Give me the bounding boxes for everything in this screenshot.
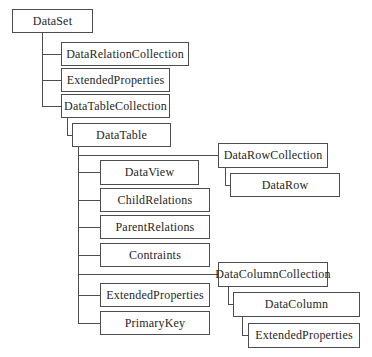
node-data-column-collection: DataColumnCollection	[218, 262, 328, 287]
node-primary-key: PrimaryKey	[100, 311, 210, 335]
node-dataset: DataSet	[12, 9, 93, 33]
node-data-table-collection: DataTableCollection	[61, 94, 170, 118]
node-data-view: DataView	[100, 160, 199, 185]
node-child-relations: ChildRelations	[100, 188, 210, 212]
node-data-relation-collection: DataRelationCollection	[61, 42, 189, 66]
node-extended-properties-table: ExtendedProperties	[100, 283, 210, 307]
node-data-row: DataRow	[230, 173, 340, 197]
dataset-hierarchy-diagram: DataSet DataRelationCollection ExtendedP…	[0, 0, 372, 357]
node-extended-properties-column: ExtendedProperties	[248, 323, 360, 348]
node-data-column: DataColumn	[233, 292, 360, 317]
node-parent-relations: ParentRelations	[100, 215, 210, 239]
node-contraints: Contraints	[100, 243, 210, 267]
node-extended-properties-dataset: ExtendedProperties	[61, 68, 170, 92]
node-data-row-collection: DataRowCollection	[218, 143, 328, 168]
node-data-table: DataTable	[72, 123, 171, 147]
